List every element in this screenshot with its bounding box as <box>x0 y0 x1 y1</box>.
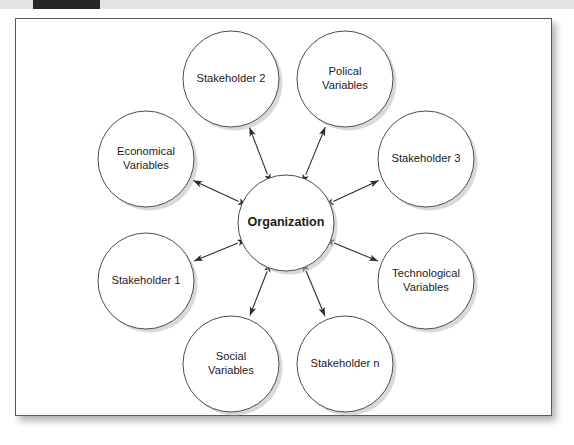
link-organization-to-stakeholder-1 <box>194 243 238 261</box>
node-label: Stakeholder 1 <box>111 274 180 286</box>
node-technological-variables[interactable]: TechnologicalVariables <box>378 233 478 333</box>
node-stakeholder-n[interactable]: Stakeholder n <box>297 316 397 416</box>
figure-frame: Stakeholder 2PolicalVariablesStakeholder… <box>15 18 552 416</box>
nodes-layer: Stakeholder 2PolicalVariablesStakeholder… <box>98 31 478 416</box>
node-label: Variables <box>208 364 254 376</box>
stakeholder-diagram: Stakeholder 2PolicalVariablesStakeholder… <box>16 19 553 417</box>
node-label: Social <box>216 350 246 362</box>
node-label: Stakeholder 3 <box>391 152 460 164</box>
node-label: Variables <box>403 281 449 293</box>
node-stakeholder-1[interactable]: Stakeholder 1 <box>98 233 198 333</box>
node-label: Economical <box>117 145 175 157</box>
link-organization-to-stakeholder-3 <box>333 181 378 202</box>
link-organization-to-social-variables <box>250 271 267 315</box>
node-label: Stakeholder n <box>310 357 379 369</box>
top-banner <box>0 0 574 9</box>
node-label: Stakeholder 2 <box>196 72 265 84</box>
link-organization-to-stakeholder-2 <box>250 128 268 175</box>
node-label: Variables <box>322 79 368 91</box>
node-label: Variables <box>123 159 169 171</box>
node-stakeholder-3[interactable]: Stakeholder 3 <box>378 111 478 211</box>
node-organization[interactable]: Organization <box>238 175 338 275</box>
link-organization-to-economical-variables <box>193 181 238 202</box>
node-polical-variables[interactable]: PolicalVariables <box>297 31 397 131</box>
banner-dark-strip <box>33 0 100 9</box>
link-organization-to-stakeholder-n <box>306 271 325 316</box>
node-label: Technological <box>392 267 460 279</box>
link-organization-to-polical-variables <box>306 127 326 175</box>
node-stakeholder-2[interactable]: Stakeholder 2 <box>183 31 283 131</box>
node-social-variables[interactable]: SocialVariables <box>183 316 283 416</box>
link-organization-to-technological-variables <box>334 243 378 261</box>
node-label: Polical <box>329 65 362 77</box>
node-economical-variables[interactable]: EconomicalVariables <box>98 111 198 211</box>
node-label: Organization <box>248 215 325 229</box>
